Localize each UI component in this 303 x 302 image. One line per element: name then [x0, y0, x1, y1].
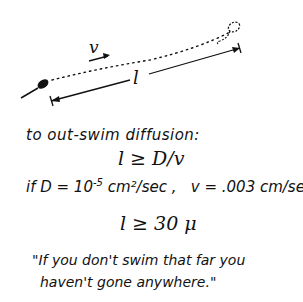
bacterium-end-icon [217, 20, 241, 44]
quote-line-2: haven't gone anywhere." [40, 274, 216, 290]
length-label: l [133, 67, 139, 88]
bacterium-start-icon [21, 77, 50, 98]
exponent: -5 [93, 177, 103, 188]
inequality-formula: l ≥ D/v [118, 147, 184, 169]
diffusion-units: cm²/sec , [103, 178, 177, 196]
heading-text: to out-swim diffusion: [26, 126, 200, 144]
diffusion-constant: if D = 10 [26, 178, 93, 196]
swim-path [52, 32, 230, 80]
velocity-label: v [89, 37, 99, 57]
swimming-bacterium-diagram: v l [0, 0, 303, 120]
quote-line-1: "If you don't swim that far you [32, 252, 245, 268]
velocity-condition: v = .003 cm/sec [191, 178, 303, 196]
condition-text: if D = 10-5 cm²/sec , v = .003 cm/sec [26, 177, 303, 196]
result-formula: l ≥ 30 μ [120, 212, 197, 234]
length-arrow-icon [50, 43, 241, 106]
